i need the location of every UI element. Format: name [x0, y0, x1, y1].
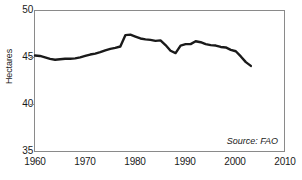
source-annotation: Source: FAO	[227, 136, 278, 146]
x-axis-tick-label-2010: 2010	[265, 156, 302, 167]
y-axis-tick-label-35: 35	[0, 146, 33, 156]
plot-area: Source: FAO	[34, 10, 285, 152]
x-axis-tick-label-1990: 1990	[165, 156, 205, 167]
x-axis-tick-label-1960: 1960	[15, 156, 55, 167]
y-axis-tick-label-50: 50	[0, 5, 33, 15]
x-axis-tick-label-2000: 2000	[215, 156, 255, 167]
y-axis-title: Hectares	[5, 32, 14, 102]
chart-figure: Hectares 50 45 40 35 1960 1970 1980 1990…	[0, 0, 302, 180]
y-axis-tick-label-40: 40	[0, 99, 33, 109]
series-line-hectares	[35, 11, 286, 153]
x-axis-tick-label-1970: 1970	[65, 156, 105, 167]
x-axis-tick-label-1980: 1980	[115, 156, 155, 167]
y-axis-tick-label-45: 45	[0, 52, 33, 62]
